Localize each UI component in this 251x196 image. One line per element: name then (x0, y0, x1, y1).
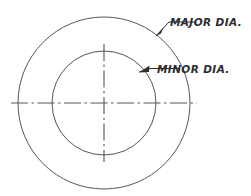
minor-dia-label: MINOR DIA. (157, 63, 230, 75)
major-dia-label: MAJOR DIA. (170, 16, 242, 28)
technical-drawing-canvas: MAJOR DIA. MINOR DIA. (0, 0, 251, 196)
